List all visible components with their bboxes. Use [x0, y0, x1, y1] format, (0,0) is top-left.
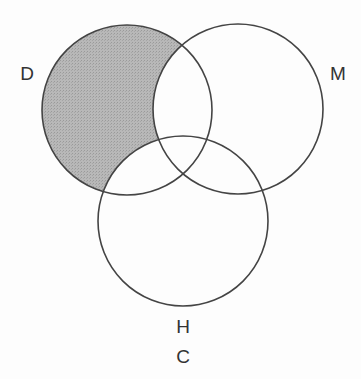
caption-c: C — [176, 347, 190, 366]
label-h: H — [176, 317, 190, 336]
label-d: D — [20, 64, 34, 83]
venn-diagram: D M H C — [0, 0, 361, 379]
label-m: M — [330, 64, 346, 83]
